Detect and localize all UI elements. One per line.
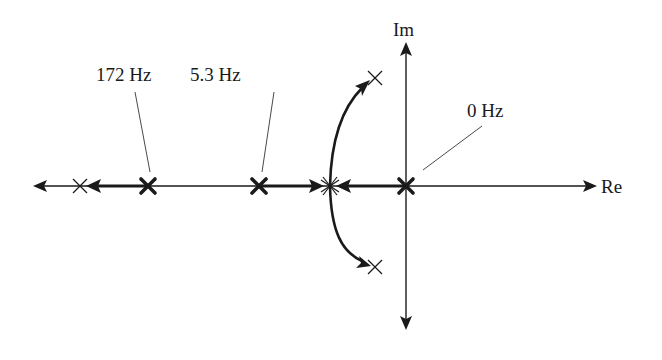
- locus-branch-0hz: [336, 179, 406, 193]
- closed-loop-pole-upper-icon: [368, 71, 382, 85]
- leader-line-172hz: [135, 92, 150, 172]
- leader-line-0hz: [423, 126, 482, 170]
- locus-complex-upper: [330, 80, 370, 186]
- pole-label-5-3hz: 5.3 Hz: [190, 65, 241, 84]
- imag-axis-label: Im: [393, 20, 414, 39]
- pole-label-172hz: 172 Hz: [96, 65, 151, 84]
- locus-branch-172hz: [86, 179, 148, 193]
- closed-loop-pole-lower-icon: [368, 260, 382, 274]
- locus-branch-5-3hz: [259, 179, 324, 193]
- pole-label-0hz: 0 Hz: [467, 101, 503, 120]
- root-locus-diagram: Im Re 172 Hz 5.3 Hz 0 Hz: [0, 0, 662, 360]
- leader-line-5-3hz: [262, 92, 274, 172]
- locus-complex-lower: [330, 186, 371, 268]
- real-axis-label: Re: [601, 177, 622, 196]
